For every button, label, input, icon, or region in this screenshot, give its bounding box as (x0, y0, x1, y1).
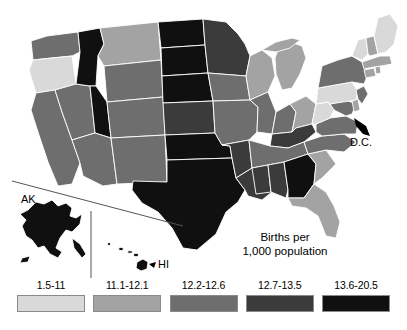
legend-swatch-1 (17, 295, 85, 312)
map-title-line-2: 1,000 population (242, 245, 327, 257)
state-ak[interactable] (20, 200, 82, 258)
map-title-line-1: Births per (260, 231, 309, 243)
legend-item-5[interactable]: 13.6-20.5 (321, 278, 391, 312)
state-hi-maui[interactable] (133, 253, 138, 257)
legend-item-2[interactable]: 11.1-12.1 (92, 278, 162, 312)
legend-item-1[interactable]: 1.5-11 (16, 278, 86, 312)
state-ri[interactable] (375, 66, 381, 74)
state-ne[interactable] (162, 73, 213, 103)
legend-label-4: 12.7-13.5 (258, 278, 301, 292)
state-co[interactable] (107, 97, 165, 138)
state-ny[interactable] (318, 56, 368, 88)
legend-label-5: 13.6-20.5 (334, 278, 377, 292)
state-hi-oahu[interactable] (119, 247, 124, 250)
state-wa[interactable] (31, 32, 80, 60)
state-me[interactable] (374, 14, 398, 54)
legend-label-2: 11.1-12.1 (106, 278, 149, 292)
legend-swatch-4 (246, 295, 314, 312)
legend-swatch-5 (322, 295, 390, 312)
state-ak-panhandle[interactable] (72, 238, 86, 258)
hawaii-pointer-icon (149, 262, 156, 268)
state-nd[interactable] (158, 19, 205, 48)
hawaii-label: HI (158, 258, 169, 270)
legend-label-3: 12.2-12.6 (182, 278, 225, 292)
state-mn[interactable] (203, 19, 250, 76)
legend-label-1: 1.5-11 (37, 278, 65, 292)
state-sd[interactable] (161, 45, 208, 76)
state-hi-bigisland[interactable] (136, 259, 148, 271)
state-ak-aleutians[interactable] (20, 256, 30, 263)
legend-swatch-2 (93, 295, 161, 312)
choropleth-figure: HI AK D.C. Births per 1,000 population 1… (0, 0, 407, 330)
state-mt[interactable] (98, 22, 161, 66)
state-nc[interactable] (304, 134, 356, 154)
legend-item-4[interactable]: 12.7-13.5 (245, 278, 315, 312)
state-wy[interactable] (104, 60, 163, 102)
state-hi-molokai[interactable] (127, 251, 133, 254)
legend-swatch-3 (170, 295, 238, 312)
state-wi[interactable] (246, 50, 275, 100)
dc-label: D.C. (350, 136, 372, 148)
legend-item-3[interactable]: 12.2-12.6 (169, 278, 239, 312)
state-vt[interactable] (352, 38, 368, 60)
state-hi-kauai[interactable] (107, 242, 110, 245)
state-az[interactable] (72, 133, 117, 186)
state-ia[interactable] (208, 73, 250, 101)
state-mo[interactable] (213, 100, 258, 145)
state-ct[interactable] (364, 68, 376, 78)
state-nm[interactable] (111, 135, 167, 184)
legend: 1.5-11 11.1-12.1 12.2-12.6 12.7-13.5 13.… (0, 278, 407, 330)
us-map[interactable]: HI AK D.C. Births per 1,000 population (0, 0, 407, 278)
alaska-label: AK (21, 193, 36, 205)
state-ks[interactable] (163, 101, 215, 135)
